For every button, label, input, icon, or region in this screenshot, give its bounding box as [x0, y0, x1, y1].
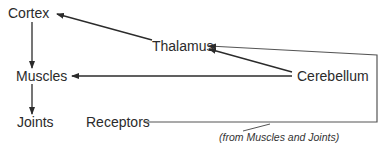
caption-pointer-line [243, 124, 270, 131]
node-thalamus: Thalamus [152, 38, 213, 54]
arrow-receptors-loop-to-thalamus [145, 46, 377, 122]
node-joints: Joints [17, 114, 54, 130]
node-muscles: Muscles [16, 68, 67, 84]
node-cerebellum: Cerebellum [297, 68, 369, 84]
arrow-cerebellum-to-thalamus [209, 49, 292, 72]
caption-from-muscles-and-joints: (from Muscles and Joints) [219, 131, 339, 143]
arrow-thalamus-to-cortex [57, 14, 152, 40]
node-cortex: Cortex [8, 5, 49, 21]
node-receptors: Receptors [86, 114, 150, 130]
